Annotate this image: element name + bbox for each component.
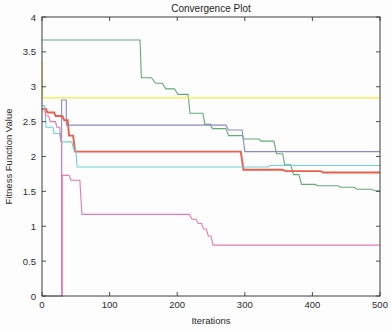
page-title: Convergence Plot [171, 3, 251, 14]
x-axis-title: Iterations [191, 315, 230, 326]
y-tick-label-2: 2 [31, 151, 36, 162]
x-tick-label-300: 300 [237, 299, 253, 310]
x-tick-label-200: 200 [169, 299, 185, 310]
y-tick-label-3: 3 [31, 81, 36, 92]
y-tick-label-1.5: 1.5 [23, 186, 36, 197]
x-tick-label-400: 400 [304, 299, 320, 310]
y-tick-label-0.5: 0.5 [23, 256, 36, 267]
convergence-plot-figure: 010020030040050000.511.522.533.54 Conver… [0, 0, 391, 331]
x-tick-label-0: 0 [39, 299, 44, 310]
convergence-plot-canvas: 010020030040050000.511.522.533.54 Conver… [0, 0, 391, 331]
y-tick-label-3.5: 3.5 [23, 46, 36, 57]
y-axis-title: Fitness Function Value [3, 109, 14, 205]
y-tick-label-2.5: 2.5 [23, 116, 36, 127]
y-tick-label-4: 4 [31, 12, 36, 23]
x-tick-label-500: 500 [372, 299, 388, 310]
y-tick-label-0: 0 [31, 291, 36, 302]
x-tick-label-100: 100 [102, 299, 118, 310]
y-tick-label-1: 1 [31, 221, 36, 232]
